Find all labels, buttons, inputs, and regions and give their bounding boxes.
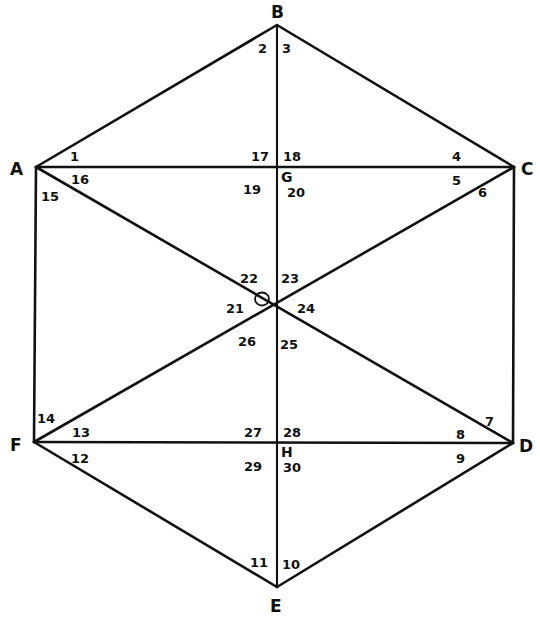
angle-number: 2 — [258, 41, 267, 56]
angle-number: 10 — [282, 557, 300, 572]
interior-lines — [34, 25, 514, 587]
vertex-label-B: B — [271, 2, 284, 22]
angle-number: 30 — [283, 460, 301, 475]
angle-number: 6 — [478, 185, 487, 200]
vertex-label-D: D — [519, 436, 533, 456]
angle-number: 12 — [71, 451, 89, 466]
angle-number: 26 — [238, 334, 256, 349]
segment-BC — [277, 25, 514, 167]
segment-CD — [513, 167, 514, 443]
angle-number: 17 — [251, 149, 269, 164]
angle-number: 3 — [282, 41, 291, 56]
angle-number: 5 — [452, 173, 461, 188]
angle-number: 19 — [243, 182, 261, 197]
angle-number: 7 — [485, 414, 494, 429]
angle-number: 11 — [250, 555, 268, 570]
angle-number: 14 — [37, 411, 55, 426]
vertex-label-E: E — [270, 596, 282, 616]
angle-number: 23 — [281, 271, 299, 286]
angle-number: 29 — [244, 459, 262, 474]
segment-FD — [34, 442, 513, 443]
angle-numbers: 2 3 1 16 15 17 18 19 20 4 5 6 22 23 21 2… — [37, 41, 494, 572]
segment-FA — [34, 167, 36, 442]
angle-number: 20 — [287, 185, 305, 200]
angle-number: 16 — [71, 172, 89, 187]
angle-number: 13 — [72, 425, 90, 440]
angle-number: 21 — [226, 301, 244, 316]
point-label-H: H — [281, 444, 293, 460]
vertex-label-F: F — [10, 435, 22, 455]
angle-number: 4 — [452, 149, 461, 164]
angle-number: 22 — [240, 271, 258, 286]
angle-number: 28 — [283, 425, 301, 440]
vertex-labels: B A C D E F G H — [10, 2, 533, 616]
angle-number: 15 — [41, 189, 59, 204]
angle-number: 27 — [244, 425, 262, 440]
segment-DE — [277, 443, 513, 587]
vertex-label-C: C — [521, 159, 533, 179]
hexagon-diagram: B A C D E F G H 2 3 1 16 15 17 18 19 20 … — [0, 0, 540, 625]
angle-number: 1 — [70, 149, 79, 164]
angle-number: 8 — [456, 427, 465, 442]
angle-number: 18 — [283, 149, 301, 164]
angle-number: 9 — [456, 451, 465, 466]
angle-number: 25 — [280, 337, 298, 352]
vertex-label-A: A — [10, 159, 24, 179]
angle-number: 24 — [297, 301, 315, 316]
segment-AB — [36, 25, 277, 167]
point-label-G: G — [281, 169, 293, 185]
